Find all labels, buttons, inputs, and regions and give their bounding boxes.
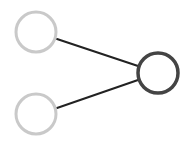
node-input-bottom bbox=[16, 94, 56, 134]
node-link-diagram bbox=[0, 0, 194, 143]
node-input-top bbox=[16, 12, 56, 52]
node-output bbox=[138, 53, 178, 93]
